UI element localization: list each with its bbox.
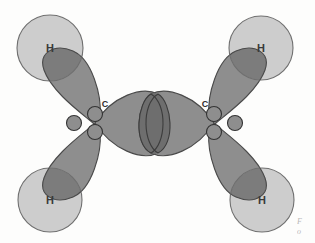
- p-lobe-right-down: [207, 125, 222, 140]
- p-lobe-left-up: [88, 107, 103, 122]
- p-lobe-right-up: [207, 107, 222, 122]
- p-lobe-left-down: [88, 125, 103, 140]
- orbital-diagram-figure: H H H H C C F o: [0, 0, 315, 243]
- orbital-diagram-canvas: H H H H C C: [0, 0, 315, 243]
- carbon-label-right: C: [202, 99, 209, 109]
- p-lobe-right-outer: [228, 116, 243, 131]
- p-lobe-left-outer: [67, 116, 82, 131]
